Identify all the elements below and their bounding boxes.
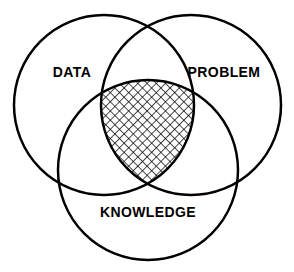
label-problem: PROBLEM [188, 64, 261, 80]
label-knowledge: KNOWLEDGE [100, 204, 196, 220]
venn-diagram: DATA PROBLEM KNOWLEDGE [0, 0, 294, 272]
label-data: DATA [53, 64, 91, 80]
venn-diagram-canvas: DATA PROBLEM KNOWLEDGE [0, 0, 294, 272]
